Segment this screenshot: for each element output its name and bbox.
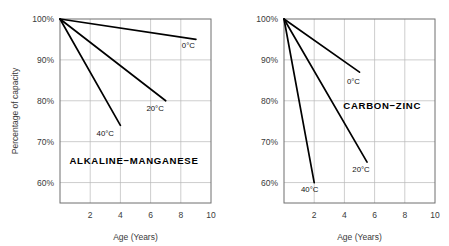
x-tick-label: 10 [430,210,440,220]
y-axis-title: Percentage of capacity [10,67,20,154]
y-tick-label: 80% [261,96,278,106]
chart-title: ALKALINE−MANGANESE [69,155,198,166]
x-axis-title: Age (Years) [337,232,382,242]
x-tick-label: 6 [372,210,377,220]
series-annotation: 40°C [97,129,115,138]
chart-canvas-right: 60%70%80%90%100%2468100°C20°C40°CCARBON−… [224,0,449,246]
y-tick-label: 80% [37,96,54,106]
x-tick-label: 2 [88,210,93,220]
x-tick-label: 10 [206,210,216,220]
y-tick-label: 90% [261,55,278,65]
chart-carbon-zinc: 60%70%80%90%100%2468100°C20°C40°CCARBON−… [224,0,448,246]
chart-title: CARBON−ZINC [343,100,421,111]
y-tick-label: 70% [37,137,54,147]
series-annotation: 40°C [301,185,319,194]
figure-root: 60%70%80%90%100%2468100°C20°C40°CALKALIN… [0,0,449,246]
series-annotation: 20°C [146,104,164,113]
y-tick-label: 100% [32,14,54,24]
y-tick-label: 70% [261,137,278,147]
x-tick-label: 8 [178,210,183,220]
y-tick-label: 60% [261,178,278,188]
x-tick-label: 2 [312,210,317,220]
series-line-0c [60,19,196,39]
series-annotation: 0°C [182,41,195,50]
plot-frame [284,19,435,203]
x-tick-label: 6 [148,210,153,220]
x-axis-title: Age (Years) [113,232,158,242]
series-line-0c [284,19,360,72]
chart-canvas-left: 60%70%80%90%100%2468100°C20°C40°CALKALIN… [0,0,224,246]
chart-alkaline-manganese: 60%70%80%90%100%2468100°C20°C40°CALKALIN… [0,0,224,246]
series-annotation: 20°C [352,165,370,174]
y-tick-label: 60% [37,178,54,188]
y-tick-label: 90% [37,55,54,65]
y-tick-label: 100% [256,14,278,24]
series-annotation: 0°C [347,77,360,86]
x-tick-label: 8 [402,210,407,220]
x-tick-label: 4 [342,210,347,220]
x-tick-label: 4 [118,210,123,220]
